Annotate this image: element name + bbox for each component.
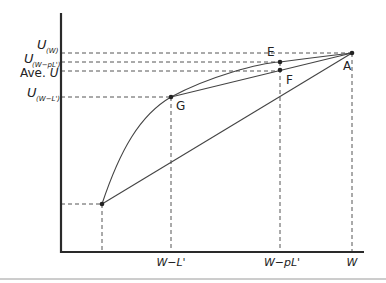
label-e: E <box>267 45 275 59</box>
x-label-w: W <box>347 256 359 269</box>
point-g <box>169 95 174 100</box>
x-label-w-pl: W−pL' <box>264 256 300 269</box>
chord-low-a <box>102 53 352 204</box>
utility-diagram: E F G A U (W) U (W−pL') Ave. U U (W−L') … <box>0 0 386 283</box>
label-a: A <box>343 59 352 73</box>
label-g: G <box>176 99 185 113</box>
y-label-u-w-l: U (W−L') <box>27 85 60 103</box>
svg-text:Ave. U: Ave. U <box>20 66 59 80</box>
point-e <box>278 60 283 65</box>
label-f: F <box>286 73 293 87</box>
svg-text:(W): (W) <box>46 47 59 55</box>
point-f <box>278 68 283 73</box>
point-low <box>100 202 105 207</box>
svg-text:(W−L'): (W−L') <box>36 95 60 103</box>
x-label-w-l: W−L' <box>156 256 185 269</box>
y-label-ave-u: Ave. U <box>20 66 59 80</box>
chord-g-a <box>171 53 352 97</box>
y-label-u-w: U (W) <box>37 37 59 55</box>
point-a <box>350 51 355 56</box>
